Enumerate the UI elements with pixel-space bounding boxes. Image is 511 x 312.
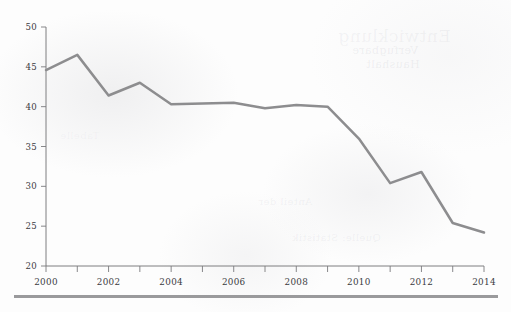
y-axis-tick-label: 20 [25, 261, 37, 271]
x-axis-tick-label: 2010 [347, 277, 371, 287]
x-axis: 20002002200420062008201020122014 [34, 266, 496, 287]
y-axis-tick-label: 25 [25, 221, 37, 231]
y-axis-tick-label: 40 [25, 102, 37, 112]
y-axis-ticks [41, 27, 46, 266]
y-axis-tick-label: 45 [25, 62, 37, 72]
x-axis-tick-label: 2006 [222, 277, 246, 287]
x-axis-tick-label: 2008 [284, 277, 308, 287]
data-series-group [46, 55, 484, 233]
x-axis-tick-label: 2014 [472, 277, 496, 287]
chart-page: Entwicklung Verfugbare Haushalt Anteil d… [0, 0, 511, 312]
x-axis-tick-label: 2000 [34, 277, 58, 287]
x-axis-ticks [46, 266, 484, 272]
y-axis-tick-labels: 20253035404550 [25, 22, 37, 271]
y-axis-tick-label: 30 [25, 181, 37, 191]
y-axis-tick-label: 50 [25, 22, 37, 32]
bottom-horizontal-rule [14, 295, 498, 298]
x-axis-tick-labels: 20002002200420062008201020122014 [34, 277, 496, 287]
x-axis-tick-label: 2002 [97, 277, 121, 287]
data-line-series-1 [46, 55, 484, 233]
line-chart: 20253035404550 2000200220042006200820102… [0, 0, 511, 312]
y-axis-tick-label: 35 [25, 142, 37, 152]
x-axis-tick-label: 2004 [159, 277, 183, 287]
y-axis: 20253035404550 [25, 22, 46, 271]
x-axis-tick-label: 2012 [410, 277, 434, 287]
